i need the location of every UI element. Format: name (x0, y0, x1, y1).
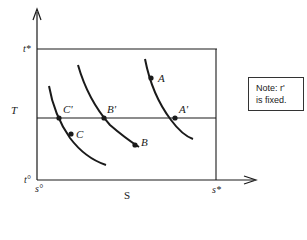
t-origin-tick: t° (24, 175, 31, 185)
point-b-prime (101, 115, 106, 120)
t-star-tick: t* (23, 44, 31, 54)
point-b (132, 142, 137, 147)
label-b-prime: B' (107, 104, 116, 115)
s-origin-tick: s° (35, 184, 43, 194)
note-line-2: is fixed. (256, 94, 303, 106)
point-a (148, 75, 153, 80)
point-a-prime (172, 115, 177, 120)
y-axis-label: T (11, 105, 17, 116)
label-b: B (141, 137, 148, 148)
label-c-prime: C' (63, 104, 73, 115)
label-a-prime: A' (179, 104, 188, 115)
point-c (68, 131, 73, 136)
curve-a (145, 59, 193, 139)
point-c-prime (56, 115, 61, 120)
s-star-tick: s* (212, 185, 221, 195)
curve-c (49, 86, 106, 165)
note-line-1: Note: r' (256, 82, 303, 94)
x-axis-label: S (124, 190, 130, 201)
label-c: C (76, 129, 83, 140)
label-a: A (158, 73, 165, 84)
note-box: Note: r' is fixed. (248, 77, 304, 111)
